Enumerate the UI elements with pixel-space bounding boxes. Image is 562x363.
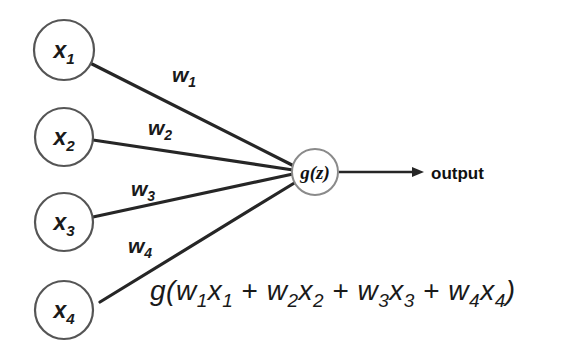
edge-x2-to-gz xyxy=(93,140,293,170)
diagram-canvas: x1 x2 x3 x4 w1 w2 xyxy=(0,0,562,363)
input-node-x2[interactable]: x2 xyxy=(35,108,93,166)
activation-node-gz[interactable]: g(z) xyxy=(292,149,338,195)
output-arrow-head xyxy=(412,167,424,177)
weighted-sum-formula: g(w1x1 + w2x2 + w3x3 + w4x4) xyxy=(150,275,516,311)
input-node-x1[interactable]: x1 xyxy=(34,20,94,80)
weight-label-w4: w4 xyxy=(128,234,152,261)
input-node-x4[interactable]: x4 xyxy=(35,281,93,339)
weight-label-w3: w3 xyxy=(131,177,155,204)
formula-token-open: g( xyxy=(150,275,178,306)
node-label-gz: g(z) xyxy=(299,162,330,184)
weight-label-w2: w2 xyxy=(148,116,172,143)
neuron-diagram: x1 x2 x3 x4 w1 w2 xyxy=(0,0,562,363)
output-arrow xyxy=(339,167,424,177)
weight-label-w1: w1 xyxy=(172,63,196,90)
input-node-x3[interactable]: x3 xyxy=(35,193,93,251)
edge-x3-to-gz xyxy=(93,174,293,217)
output-label: output xyxy=(431,164,484,183)
edge-group xyxy=(92,64,296,302)
